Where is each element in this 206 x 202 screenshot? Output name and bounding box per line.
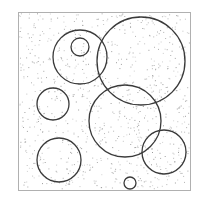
circle-G [142, 130, 186, 174]
circle-B [71, 38, 89, 56]
circle-E [89, 85, 161, 157]
noise-dots [19, 13, 190, 189]
circle-C [97, 17, 185, 105]
circle-D [37, 88, 69, 120]
circle-H [124, 177, 136, 189]
circle-packing-diagram [0, 0, 206, 202]
